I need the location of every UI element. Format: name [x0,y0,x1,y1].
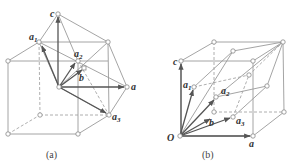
label-b-b: b [209,117,214,128]
label-a1: a1 [29,31,38,44]
label-origin: O [167,132,174,143]
label-c-b: c [173,56,178,67]
label-a1-b: a1 [183,79,192,92]
label-a: a [131,81,136,92]
label-c: c [50,8,55,19]
label-b: b [79,72,84,83]
vector-a3 [59,87,106,113]
vector-a3-b [180,118,230,136]
label-a3: a3 [112,111,121,124]
label-a2: a2 [74,48,83,61]
panel-a: c a1 a2 b a a3 (a) [6,8,136,161]
panel-b: c a1 a2 b a3 O a (b) [167,40,286,161]
label-a3-b: a3 [236,115,245,128]
label-a-b: a [249,138,254,149]
caption-b: (b) [202,149,214,161]
caption-a: (a) [46,149,57,161]
vector-a1 [42,46,59,87]
crystal-lattice-diagram: c a1 a2 b a a3 (a) [0,0,295,167]
